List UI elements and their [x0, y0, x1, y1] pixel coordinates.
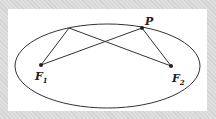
point-p [140, 26, 144, 30]
segment-f1-p [41, 28, 142, 65]
label-p: P [144, 15, 154, 28]
label-f1: F1 [34, 70, 48, 85]
ellipse-diagram: P F1 F2 [0, 0, 216, 119]
point-f1 [39, 63, 43, 67]
segment-q-f2 [69, 28, 171, 66]
label-f2: F2 [171, 72, 185, 87]
point-f2 [169, 64, 173, 68]
